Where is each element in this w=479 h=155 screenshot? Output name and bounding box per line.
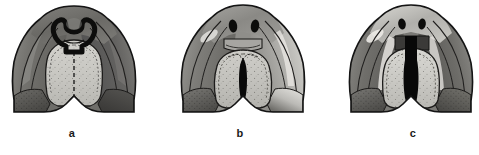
specimen-a-glabella-lobe bbox=[66, 18, 82, 30]
specimen-c-body bbox=[345, 0, 477, 124]
panel-label-b: b bbox=[230, 127, 250, 139]
panel-label-c: c bbox=[403, 127, 423, 139]
specimen-b-body bbox=[176, 0, 310, 124]
specimen-b-illustration bbox=[176, 0, 310, 124]
specimen-panel-c bbox=[345, 0, 477, 124]
specimen-b-rostral-plate bbox=[224, 39, 262, 51]
specimen-a-body bbox=[8, 0, 140, 124]
specimen-c-illustration bbox=[345, 0, 477, 124]
panel-label-a: a bbox=[62, 127, 82, 139]
specimen-panel-b bbox=[176, 0, 310, 124]
specimen-a-illustration bbox=[8, 0, 140, 124]
figure-root: a b c bbox=[0, 0, 479, 155]
specimen-panel-a bbox=[8, 0, 140, 124]
